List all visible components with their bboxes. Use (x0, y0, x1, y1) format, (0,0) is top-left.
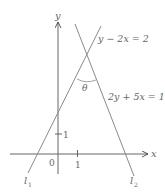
label-l1: l 1 (24, 175, 32, 188)
label-l1-main: l (24, 175, 27, 186)
label-l2-main: l (130, 175, 133, 186)
label-l2: l 2 (130, 175, 138, 188)
x-axis-label: x (151, 148, 157, 159)
line-l1 (28, 26, 101, 173)
label-l1-sub: 1 (28, 181, 32, 188)
equation-l1: y − 2x = 2 (97, 33, 149, 44)
angle-arc (77, 79, 96, 82)
x-tick-label: 1 (75, 160, 81, 170)
y-tick-label: 1 (63, 130, 69, 140)
y-axis-label: y (54, 10, 61, 21)
angle-label: θ (82, 83, 88, 93)
label-l2-sub: 2 (134, 181, 138, 188)
diagram-canvas: y x 0 1 1 y − 2x = 2 2y + 5x = 17 θ l 1 … (0, 0, 165, 194)
equation-l2: 2y + 5x = 17 (107, 91, 165, 102)
origin-label: 0 (49, 158, 55, 168)
